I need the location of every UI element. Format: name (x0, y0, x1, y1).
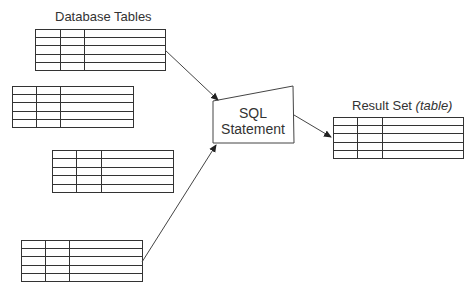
table-border (22, 241, 143, 282)
result-set-label: Result Set (table) (352, 98, 452, 113)
database-table-4 (21, 240, 143, 282)
table-border (53, 151, 174, 193)
table-border (334, 118, 464, 159)
database-table-2 (12, 86, 134, 128)
table-border (36, 30, 166, 71)
sql-label-line1: SQL (239, 105, 267, 121)
table-border (13, 87, 134, 128)
result-table (333, 117, 464, 159)
result-set-label-main: Result Set (352, 98, 416, 113)
database-table-1 (35, 29, 166, 71)
arrow-sql-to-result (294, 115, 331, 137)
sql-label-line2: Statement (221, 121, 285, 137)
result-set-label-italic: (table) (416, 98, 453, 113)
sql-diagram: Database Tables Result Set (table) SQL S… (0, 0, 471, 292)
database-tables-label: Database Tables (55, 9, 152, 24)
database-table-3 (52, 150, 174, 193)
arrow-table1-to-sql (165, 50, 218, 100)
